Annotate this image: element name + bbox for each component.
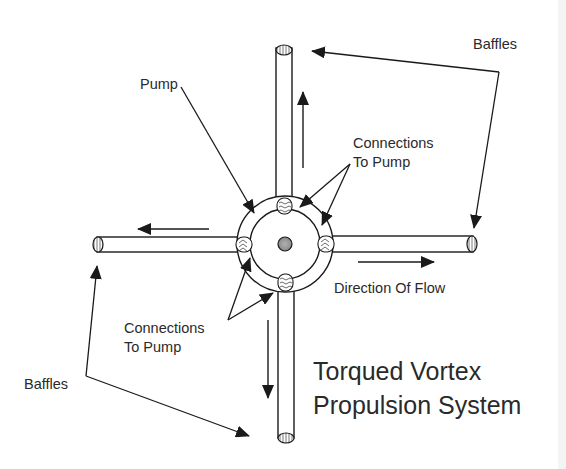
connections-bottom-label-line1: Connections xyxy=(124,320,205,336)
pump-core-icon xyxy=(278,237,292,251)
connections-top-label-line2: To Pump xyxy=(353,154,410,170)
baffles-top-leader-right-icon xyxy=(474,72,499,228)
baffle-top-icon xyxy=(276,45,292,55)
tube-bottom xyxy=(278,290,294,443)
connection-top xyxy=(277,198,292,214)
connections-top-label-line1: Connections xyxy=(353,135,434,151)
baffles-top-label: Baffles xyxy=(473,36,517,52)
baffles-bottom-label: Baffles xyxy=(24,376,68,392)
tube-right xyxy=(330,236,477,252)
direction-of-flow-label: Direction Of Flow xyxy=(334,280,446,296)
baffle-bottom-icon xyxy=(278,433,294,443)
baffle-left-icon xyxy=(93,237,103,252)
connections-bottom-leader-1-icon xyxy=(228,258,250,320)
connection-bottom xyxy=(278,274,293,291)
tube-left xyxy=(93,237,240,252)
pump-label: Pump xyxy=(140,76,178,92)
diagram-title-line2: Propulsion System xyxy=(313,391,521,419)
diagram-title-line1: Torqued Vortex xyxy=(313,357,482,385)
baffles-bottom-leader-left-icon xyxy=(86,266,97,376)
pump-leader-arrow-icon xyxy=(181,87,254,213)
diagram-canvas: Pump Connections To Pump Connections To … xyxy=(0,0,566,469)
connections-top-leader-1-icon xyxy=(300,164,350,207)
connection-right xyxy=(318,236,334,252)
baffles-top-leader-top-icon xyxy=(312,51,499,72)
tube-top xyxy=(276,45,292,200)
connections-top-leader-2-icon xyxy=(322,164,350,225)
connections-bottom-label-line2: To Pump xyxy=(124,339,181,355)
connection-left xyxy=(236,237,252,252)
connections-bottom-leader-2-icon xyxy=(228,293,273,320)
baffles-bottom-leader-bottom-icon xyxy=(86,376,249,436)
propulsion-diagram: Pump Connections To Pump Connections To … xyxy=(0,0,566,469)
baffle-right-icon xyxy=(467,236,477,252)
